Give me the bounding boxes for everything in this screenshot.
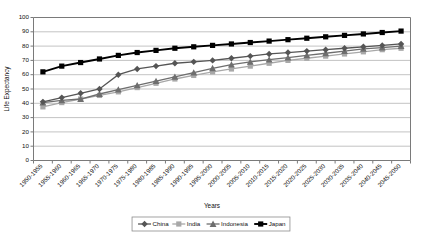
data-point-marker	[266, 51, 272, 57]
data-series-group	[40, 28, 405, 109]
data-point-marker	[229, 41, 234, 46]
data-point-marker	[209, 57, 215, 63]
y-axis-tick-labels: 0102030405060708090100	[19, 13, 30, 163]
y-tick-label: 40	[22, 99, 29, 106]
x-axis-title: Years	[204, 202, 220, 209]
data-point-marker	[116, 53, 121, 58]
y-tick-label: 90	[22, 27, 29, 34]
data-point-marker	[210, 43, 215, 48]
y-tick-label: 100	[19, 13, 30, 20]
legend-label: Japan	[269, 220, 286, 227]
data-point-marker	[153, 48, 158, 53]
series-indonesia	[40, 43, 405, 106]
data-point-marker	[153, 63, 159, 69]
data-point-marker	[247, 53, 253, 59]
series-india	[40, 46, 403, 110]
data-point-marker	[323, 34, 328, 39]
data-point-marker	[304, 36, 309, 41]
series-japan	[40, 28, 403, 74]
series-line	[43, 31, 401, 72]
y-tick-label: 30	[22, 113, 29, 120]
y-tick-label: 10	[22, 142, 29, 149]
y-tick-label: 0	[26, 156, 30, 163]
y-axis-title: Life Expectancy	[3, 66, 11, 112]
data-point-marker	[285, 37, 290, 42]
data-point-marker	[176, 221, 181, 226]
y-tick-label: 20	[22, 128, 29, 135]
data-point-marker	[248, 40, 253, 45]
data-point-marker	[267, 38, 272, 43]
chart-canvas: 0102030405060708090100 1950-19551955-196…	[0, 0, 421, 239]
data-point-marker	[172, 60, 178, 66]
data-point-marker	[135, 50, 140, 55]
y-tick-label: 50	[22, 85, 29, 92]
data-point-marker	[40, 69, 45, 74]
gridlines	[31, 18, 411, 161]
data-point-marker	[134, 66, 140, 72]
legend: ChinaIndiaIndonesiaJapan	[132, 217, 290, 231]
legend-label: Indonesia	[221, 220, 248, 227]
series-line	[43, 48, 401, 107]
data-point-marker	[78, 60, 83, 65]
data-point-marker	[191, 44, 196, 49]
series-line	[43, 44, 401, 102]
y-tick-label: 60	[22, 70, 29, 77]
legend-label: China	[153, 220, 170, 227]
data-point-marker	[191, 59, 197, 65]
data-point-marker	[77, 90, 83, 96]
y-tick-label: 80	[22, 42, 29, 49]
data-point-marker	[172, 46, 177, 51]
x-axis-tick-labels: 1950-19551955-19601960-19651965-19701970…	[18, 162, 402, 188]
data-point-marker	[361, 31, 366, 36]
data-point-marker	[304, 48, 310, 54]
data-point-marker	[398, 28, 403, 33]
life-expectancy-chart: 0102030405060708090100 1950-19551955-196…	[0, 0, 421, 239]
y-tick-label: 70	[22, 56, 29, 63]
data-point-marker	[322, 46, 328, 52]
data-point-marker	[380, 30, 385, 35]
data-point-marker	[59, 64, 64, 69]
legend-label: India	[187, 220, 201, 227]
data-point-marker	[97, 56, 102, 61]
data-point-marker	[258, 221, 263, 226]
data-point-marker	[342, 33, 347, 38]
data-point-marker	[285, 49, 291, 55]
